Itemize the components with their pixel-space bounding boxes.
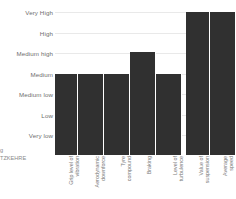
corner-caption: g TZKEHRE bbox=[0, 146, 52, 162]
bar[interactable] bbox=[156, 74, 182, 155]
bar[interactable] bbox=[210, 12, 236, 155]
corner-caption-line1: g bbox=[0, 146, 52, 154]
y-tick-label: Medium bbox=[30, 70, 53, 77]
bar[interactable] bbox=[186, 12, 210, 155]
bar[interactable] bbox=[55, 74, 78, 155]
corner-caption-line2: TZKEHRE bbox=[0, 154, 52, 162]
plot-area bbox=[55, 0, 236, 155]
x-tick-label-line2: suspension bbox=[204, 156, 210, 183]
y-tick-label: High bbox=[40, 29, 53, 36]
bar[interactable] bbox=[130, 52, 156, 155]
x-tick-label-line2: turbulence bbox=[178, 156, 184, 181]
y-tick-label: Medium high bbox=[16, 50, 53, 57]
x-tick-label-line2: compound bbox=[126, 156, 132, 181]
x-tick-label-line1: Braking bbox=[146, 156, 152, 174]
y-tick-label: Low bbox=[41, 111, 53, 118]
x-tick-label-line2: vibration bbox=[74, 156, 80, 185]
x-tick-label-line2: downforce bbox=[100, 156, 106, 187]
bar[interactable] bbox=[104, 74, 130, 155]
bar-chart: Very High High Medium high Medium Medium… bbox=[0, 0, 236, 199]
y-tick-label: Very High bbox=[25, 9, 53, 16]
x-tick-label-line2: speed bbox=[228, 156, 234, 176]
y-tick-label: Medium low bbox=[19, 91, 53, 98]
y-tick-label: Very low bbox=[29, 132, 53, 139]
bar[interactable] bbox=[78, 74, 104, 155]
